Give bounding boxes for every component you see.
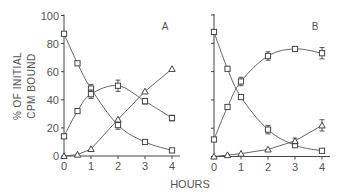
y-tick-label: 60 xyxy=(47,66,59,78)
panel-a: 02040608010001234A xyxy=(41,10,180,173)
data-point-square xyxy=(319,148,324,153)
data-point-square xyxy=(169,115,174,120)
data-point-square xyxy=(88,92,93,97)
data-point-square xyxy=(319,51,324,56)
y-tick-label: 0 xyxy=(53,150,59,162)
data-point-square xyxy=(225,66,230,71)
data-point-square xyxy=(211,137,216,142)
data-point-triangle xyxy=(169,66,175,72)
x-tick-label: 1 xyxy=(238,161,244,173)
data-point-square xyxy=(142,139,147,144)
y-axis-title: % OF INITIAL CPM BOUND xyxy=(12,52,37,120)
data-point-square xyxy=(238,79,243,84)
data-point-square xyxy=(265,127,270,132)
data-point-square xyxy=(292,46,297,51)
data-point-square xyxy=(142,99,147,104)
y-tick-label: 40 xyxy=(47,94,59,106)
x-tick-label: 3 xyxy=(142,160,148,172)
data-point-square xyxy=(61,134,66,139)
data-point-square xyxy=(75,108,80,113)
series-line-decreasing xyxy=(64,34,172,151)
data-point-square xyxy=(115,122,120,127)
data-point-square xyxy=(115,83,120,88)
data-point-square xyxy=(238,94,243,99)
data-point-square xyxy=(75,61,80,66)
y-axis-title-line-1: % OF INITIAL xyxy=(12,52,23,120)
x-tick-label: 4 xyxy=(169,160,175,172)
x-tick-label: 0 xyxy=(211,161,217,173)
x-tick-label: 4 xyxy=(319,161,325,173)
panel-b: 01234B xyxy=(211,14,330,173)
data-point-square xyxy=(169,148,174,153)
panel-label: A xyxy=(162,21,169,32)
data-point-square xyxy=(265,53,270,58)
data-point-square xyxy=(225,104,230,109)
data-point-square xyxy=(211,29,216,34)
x-tick-label: 3 xyxy=(292,161,298,173)
y-tick-label: 80 xyxy=(47,38,59,50)
data-point-triangle xyxy=(319,122,325,128)
x-tick-label: 0 xyxy=(61,160,67,172)
y-tick-label: 20 xyxy=(47,122,59,134)
data-point-triangle xyxy=(74,151,80,157)
x-tick-label: 2 xyxy=(265,161,271,173)
data-point-triangle xyxy=(292,138,298,144)
data-point-square xyxy=(61,31,66,36)
chart-figure: % OF INITIAL CPM BOUND 02040608010001234… xyxy=(0,0,338,192)
x-tick-label: 1 xyxy=(88,160,94,172)
panel-label: B xyxy=(312,21,319,32)
x-tick-label: 2 xyxy=(115,160,121,172)
y-axis-title-line-2: CPM BOUND xyxy=(26,53,37,119)
x-axis-title: HOURS xyxy=(170,178,210,190)
y-tick-label: 100 xyxy=(41,10,59,22)
